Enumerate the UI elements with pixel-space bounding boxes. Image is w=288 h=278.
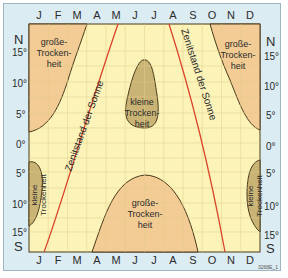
svg-text:A: A (169, 9, 177, 21)
svg-text:A: A (93, 254, 101, 266)
svg-text:5°: 5° (16, 168, 26, 179)
svg-text:Trocken-: Trocken- (220, 50, 255, 60)
svg-text:S: S (189, 254, 196, 266)
svg-text:M: M (72, 9, 81, 21)
svg-text:5°: 5° (266, 168, 276, 179)
svg-text:M: M (111, 254, 120, 266)
svg-text:heit: heit (138, 220, 153, 230)
latitude-labels-left: N 15° 10° 5° 0° 5° 10° 15° S (12, 32, 27, 254)
svg-text:Trocken-: Trocken- (127, 209, 162, 219)
month-labels-top: J F M A M J J A S O N D (36, 9, 254, 21)
svg-text:M: M (72, 254, 81, 266)
svg-text:Trocken-: Trocken- (36, 48, 71, 58)
svg-text:heit: heit (47, 59, 62, 69)
svg-text:F: F (55, 254, 62, 266)
svg-text:N: N (227, 254, 235, 266)
svg-text:0°: 0° (266, 141, 276, 152)
svg-text:Trockenheit: Trockenheit (255, 174, 264, 216)
svg-text:10°: 10° (12, 199, 27, 210)
svg-text:N: N (266, 34, 275, 49)
svg-text:heit: heit (231, 61, 246, 71)
svg-text:0°: 0° (16, 139, 26, 150)
svg-text:kleine: kleine (130, 97, 154, 107)
svg-text:Trockenheit: Trockenheit (39, 173, 48, 215)
svg-text:große-: große- (132, 198, 159, 208)
svg-text:10°: 10° (264, 81, 279, 92)
svg-text:D: D (246, 254, 254, 266)
svg-text:10°: 10° (12, 78, 27, 89)
svg-text:J: J (132, 9, 138, 21)
svg-text:große-: große- (225, 39, 252, 49)
svg-text:Trocken-: Trocken- (124, 108, 159, 118)
svg-text:F: F (55, 9, 62, 21)
svg-text:heit: heit (135, 119, 150, 129)
svg-text:J: J (132, 254, 138, 266)
month-labels-bottom: J F M A M J J A S O N D (36, 254, 254, 266)
svg-text:S: S (14, 239, 23, 254)
svg-text:A: A (169, 254, 177, 266)
svg-text:15°: 15° (12, 47, 27, 58)
svg-text:O: O (208, 254, 217, 266)
svg-text:15°: 15° (12, 227, 27, 238)
svg-text:10°: 10° (264, 201, 279, 212)
svg-text:J: J (151, 254, 157, 266)
svg-text:O: O (208, 9, 217, 21)
svg-text:M: M (111, 9, 120, 21)
svg-text:N: N (227, 9, 235, 21)
svg-text:5°: 5° (266, 110, 276, 121)
dry-season-diagram: J F M A M J J A S O N D J F M A M J J A … (0, 0, 288, 278)
svg-text:A: A (93, 9, 101, 21)
svg-text:kleine: kleine (246, 185, 255, 206)
svg-text:kleine: kleine (30, 184, 39, 205)
latitude-labels-right: N 15° 10° 5° 0° 5° 10° 15° S (264, 34, 279, 256)
svg-text:J: J (151, 9, 157, 21)
svg-text:5°: 5° (16, 109, 26, 120)
svg-text:große-: große- (41, 37, 68, 47)
figure-code: 3268E_1 (258, 264, 278, 270)
svg-text:S: S (189, 9, 196, 21)
svg-text:J: J (36, 254, 42, 266)
svg-text:J: J (36, 9, 42, 21)
svg-text:15°: 15° (264, 230, 279, 241)
svg-text:N: N (14, 32, 23, 47)
svg-text:15°: 15° (264, 51, 279, 62)
svg-text:D: D (246, 9, 254, 21)
svg-text:S: S (266, 241, 275, 256)
